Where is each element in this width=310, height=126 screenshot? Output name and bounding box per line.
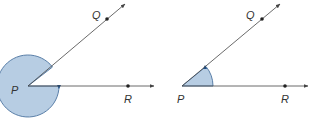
label-p: P: [11, 84, 19, 96]
label-r: R: [281, 93, 289, 105]
point-r: [126, 84, 130, 88]
acute-angle-figure: P Q R: [177, 4, 308, 105]
point-q: [260, 17, 264, 21]
ray-pq: [182, 4, 280, 86]
point-q: [105, 17, 109, 21]
angle-diagrams: P Q R P Q R: [0, 0, 310, 126]
reflex-angle-figure: P Q R: [0, 4, 154, 117]
acute-angle-sector: [182, 67, 213, 87]
label-p: P: [177, 93, 185, 105]
label-r: R: [124, 93, 132, 105]
label-q: Q: [92, 9, 101, 21]
label-q: Q: [246, 9, 255, 21]
ray-pq: [28, 4, 125, 86]
point-r: [283, 84, 287, 88]
